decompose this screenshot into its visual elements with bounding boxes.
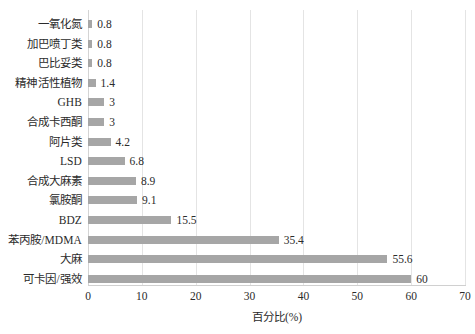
bar	[88, 138, 111, 146]
category-label: LSD	[0, 151, 82, 171]
bar-value-label: 0.8	[97, 53, 111, 73]
bar-value-label: 55.6	[392, 249, 412, 269]
x-axis-title: 百分比(%)	[88, 308, 466, 324]
x-tick-label: 70	[445, 290, 475, 302]
bar	[88, 79, 96, 87]
bar-row: 可卡因/强效60	[0, 269, 475, 289]
category-label: 巴比妥类	[0, 53, 82, 73]
bar-row: 氯胺酮9.1	[0, 190, 475, 210]
bar-value-label: 8.9	[141, 171, 155, 191]
bar-value-label: 6.8	[130, 151, 144, 171]
bar-row: 苯丙胺/MDMA35.4	[0, 230, 475, 250]
x-tick-label: 40	[283, 290, 323, 302]
category-label: 阿片类	[0, 132, 82, 152]
x-tick-label: 0	[68, 290, 108, 302]
category-label: 氯胺酮	[0, 190, 82, 210]
x-tick-label: 30	[230, 290, 270, 302]
category-label: BDZ	[0, 210, 82, 230]
bar-value-label: 3	[109, 92, 115, 112]
category-label: 苯丙胺/MDMA	[0, 230, 82, 250]
bar-row: 巴比妥类0.8	[0, 53, 475, 73]
bar-chart: 一氧化氮0.8加巴喷丁类0.8巴比妥类0.8精神活性植物1.4GHB3合成卡西酮…	[0, 0, 475, 334]
bar-row: 大麻55.6	[0, 249, 475, 269]
bar	[88, 236, 279, 244]
x-tick-label: 20	[176, 290, 216, 302]
bar	[88, 255, 387, 263]
bar	[88, 20, 92, 28]
bar	[88, 118, 104, 126]
bar-value-label: 1.4	[101, 73, 115, 93]
category-label: 可卡因/强效	[0, 269, 82, 289]
category-label: 加巴喷丁类	[0, 34, 82, 54]
bar-row: 合成大麻素8.9	[0, 171, 475, 191]
bar-row: LSD6.8	[0, 151, 475, 171]
bar	[88, 157, 125, 165]
bar-rows: 一氧化氮0.8加巴喷丁类0.8巴比妥类0.8精神活性植物1.4GHB3合成卡西酮…	[0, 0, 475, 285]
bar-row: 阿片类4.2	[0, 132, 475, 152]
bar-row: BDZ15.5	[0, 210, 475, 230]
bar	[88, 275, 411, 283]
x-tick-label: 60	[391, 290, 431, 302]
bar	[88, 98, 104, 106]
bar-row: 一氧化氮0.8	[0, 14, 475, 34]
bar	[88, 177, 136, 185]
bar-value-label: 0.8	[97, 14, 111, 34]
x-tick-label: 50	[337, 290, 377, 302]
bar-row: GHB3	[0, 92, 475, 112]
category-label: 合成卡西酮	[0, 112, 82, 132]
bar-value-label: 3	[109, 112, 115, 132]
bar-value-label: 4.2	[116, 132, 130, 152]
bar-value-label: 9.1	[142, 190, 156, 210]
category-label: GHB	[0, 92, 82, 112]
category-label: 合成大麻素	[0, 171, 82, 191]
bar-value-label: 60	[416, 269, 428, 289]
category-label: 精神活性植物	[0, 73, 82, 93]
bar	[88, 40, 92, 48]
bar-value-label: 15.5	[176, 210, 196, 230]
category-label: 大麻	[0, 249, 82, 269]
bar-row: 合成卡西酮3	[0, 112, 475, 132]
bar-row: 精神活性植物1.4	[0, 73, 475, 93]
bar	[88, 196, 137, 204]
category-label: 一氧化氮	[0, 14, 82, 34]
bar-value-label: 35.4	[284, 230, 304, 250]
bar-value-label: 0.8	[97, 34, 111, 54]
bar	[88, 216, 171, 224]
bar-row: 加巴喷丁类0.8	[0, 34, 475, 54]
bar	[88, 59, 92, 67]
x-tick-label: 10	[122, 290, 162, 302]
